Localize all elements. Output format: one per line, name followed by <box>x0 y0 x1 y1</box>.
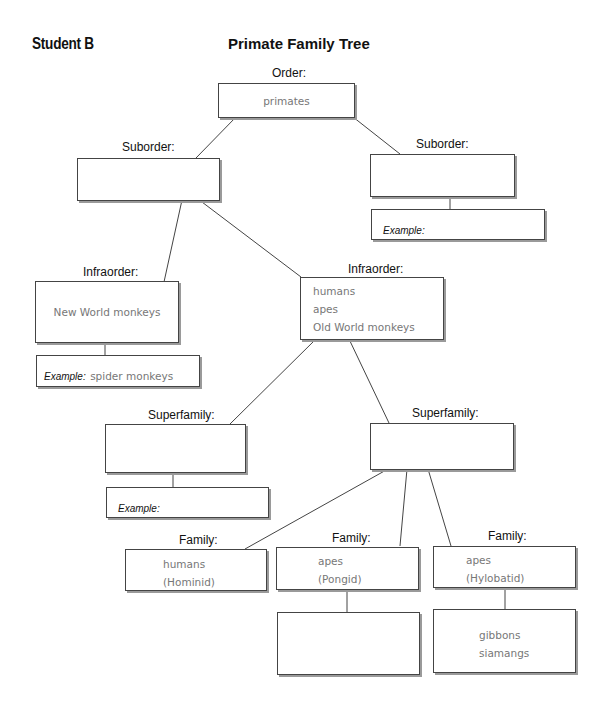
family-2-label: Family: <box>332 531 371 545</box>
superfamily-left-label: Superfamily: <box>148 408 215 422</box>
family-1-value-1: humans <box>163 555 266 573</box>
infraorder-right-label: Infraorder: <box>348 262 403 276</box>
family-2-child-box[interactable] <box>277 612 420 675</box>
infraorder-right-box[interactable]: humans apes Old World monkeys <box>300 277 444 340</box>
family-3-child-value-2: siamangs <box>479 644 575 662</box>
suborder-left-label: Suborder: <box>122 140 175 154</box>
family-2-value-1: apes <box>318 552 418 570</box>
example-label: Example: <box>118 503 160 514</box>
infraorder-right-value-1: humans <box>313 282 443 300</box>
order-value: primates <box>263 95 310 107</box>
family-3-child-box[interactable]: gibbons siamangs <box>433 609 576 673</box>
family-1-label: Family: <box>179 533 218 547</box>
order-box[interactable]: primates <box>218 83 355 118</box>
suborder-left-box[interactable] <box>77 158 220 201</box>
superfamily-right-box[interactable] <box>370 423 514 470</box>
suborder-right-example-box[interactable]: Example: <box>371 209 545 240</box>
family-2-value-2: (Pongid) <box>318 570 418 588</box>
family-1-box[interactable]: humans (Hominid) <box>125 549 267 591</box>
infraorder-right-value-2: apes <box>313 300 443 318</box>
suborder-right-box[interactable] <box>370 154 515 197</box>
superfamily-right-label: Superfamily: <box>412 406 479 420</box>
family-3-child-value-1: gibbons <box>479 626 575 644</box>
infraorder-left-example-box[interactable]: Example: spider monkeys <box>36 355 200 387</box>
order-label: Order: <box>272 66 306 80</box>
infraorder-left-box[interactable]: New World monkeys <box>35 281 179 343</box>
family-3-box[interactable]: apes (Hylobatid) <box>433 546 576 588</box>
example-label: Example: <box>383 225 425 236</box>
family-3-label: Family: <box>488 529 527 543</box>
family-2-box[interactable]: apes (Pongid) <box>276 547 419 590</box>
superfamily-left-example-box[interactable]: Example: <box>106 487 269 518</box>
family-3-value-2: (Hylobatid) <box>466 569 575 587</box>
example-value: spider monkeys <box>90 370 173 382</box>
page-title: Primate Family Tree <box>228 35 370 52</box>
family-1-value-2: (Hominid) <box>163 573 266 591</box>
family-3-value-1: apes <box>466 551 575 569</box>
superfamily-left-box[interactable] <box>105 424 246 473</box>
student-label: Student B <box>32 35 94 53</box>
infraorder-left-label: Infraorder: <box>83 265 138 279</box>
example-label: Example: <box>44 371 86 382</box>
infraorder-right-value-3: Old World monkeys <box>313 318 443 336</box>
infraorder-left-value: New World monkeys <box>54 306 161 318</box>
suborder-right-label: Suborder: <box>416 137 469 151</box>
